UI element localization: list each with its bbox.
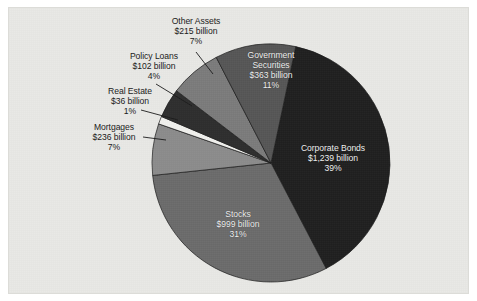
label-stocks-name: Stocks <box>186 209 290 219</box>
callout-other-assets-percent: 7% <box>148 36 244 46</box>
label-government-securities: Government Securities $363 billion 11% <box>219 50 323 90</box>
callout-policy-loans-value: $102 billion <box>106 61 202 71</box>
callout-other-assets-name: Other Assets <box>148 16 244 26</box>
callout-mortgages: Mortgages $236 billion 7% <box>66 122 162 152</box>
label-government-securities-percent: 11% <box>219 80 323 90</box>
label-corporate-bonds-name: Corporate Bonds <box>277 143 389 153</box>
label-government-securities-name-1: Government <box>219 50 323 60</box>
label-corporate-bonds-value: $1,239 billion <box>277 153 389 163</box>
callout-other-assets: Other Assets $215 billion 7% <box>148 16 244 46</box>
callout-mortgages-value: $236 billion <box>66 132 162 142</box>
label-government-securities-value: $363 billion <box>219 70 323 80</box>
callout-policy-loans-name: Policy Loans <box>106 51 202 61</box>
screenshot-root: Other Assets $215 billion 7% Policy Loan… <box>0 0 477 301</box>
callout-real-estate: Real Estate $36 billion 1% <box>84 86 176 116</box>
callout-real-estate-percent: 1% <box>84 106 176 116</box>
label-government-securities-name-2: Securities <box>219 60 323 70</box>
callout-other-assets-value: $215 billion <box>148 26 244 36</box>
callout-real-estate-value: $36 billion <box>84 96 176 106</box>
label-corporate-bonds: Corporate Bonds $1,239 billion 39% <box>277 143 389 173</box>
callout-policy-loans: Policy Loans $102 billion 4% <box>106 51 202 81</box>
label-stocks-percent: 31% <box>186 229 290 239</box>
label-stocks: Stocks $999 billion 31% <box>186 209 290 239</box>
callout-policy-loans-percent: 4% <box>106 71 202 81</box>
callout-mortgages-percent: 7% <box>66 142 162 152</box>
callout-mortgages-name: Mortgages <box>66 122 162 132</box>
label-stocks-value: $999 billion <box>186 219 290 229</box>
callout-real-estate-name: Real Estate <box>84 86 176 96</box>
label-corporate-bonds-percent: 39% <box>277 163 389 173</box>
